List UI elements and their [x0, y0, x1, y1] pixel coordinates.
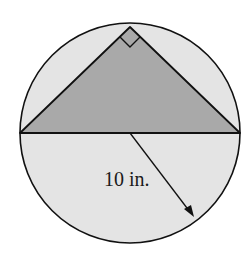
radius-label: 10 in. [104, 168, 150, 190]
diagram: 10 in. [0, 0, 252, 254]
